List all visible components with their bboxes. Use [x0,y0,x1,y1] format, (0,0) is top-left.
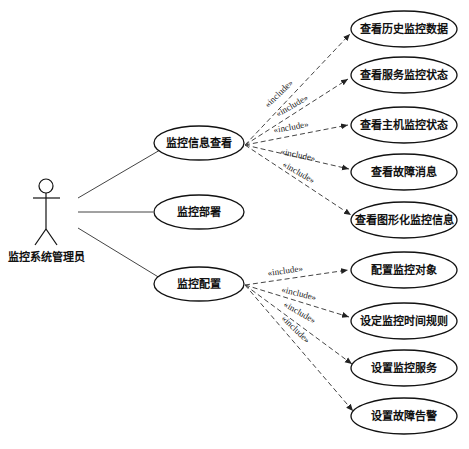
svg-text:«include»: «include» [267,263,304,278]
use-case-label: 监控配置 [177,277,221,291]
use-case-graphical-info[interactable]: 查看图形化监控信息 [355,213,454,227]
use-case-label: 监控部署 [177,205,221,219]
use-case-uc1[interactable]: 监控信息查看 [154,126,244,160]
use-case-config-objects[interactable]: 配置监控对象 [371,263,437,277]
use-case-label: 监控信息查看 [166,136,232,150]
use-case-uc3[interactable]: 监控配置 [154,267,244,301]
associations [78,150,160,278]
use-case-fault-messages[interactable]: 查看故障消息 [371,165,437,179]
actor-label: 监控系统管理员 [8,250,85,264]
use-case-uc2[interactable]: 监控部署 [154,195,244,229]
use-case-service-status[interactable]: 查看服务监控状态 [360,68,448,82]
use-case-history-data[interactable]: 查看历史监控数据 [360,22,448,36]
use-case-time-rules[interactable]: 设定监控时间规则 [360,314,448,328]
actor-stick-figure [33,179,60,245]
use-case-set-services[interactable]: 设置监控服务 [371,361,438,375]
use-case-host-status[interactable]: 查看主机监控状态 [360,118,448,132]
svg-text:«include»: «include» [273,119,310,135]
use-case-diagram: 监控系统管理员 «include» «include» «include» «i… [0,0,469,449]
use-case-fault-alarm[interactable]: 设置故障告警 [371,409,437,423]
